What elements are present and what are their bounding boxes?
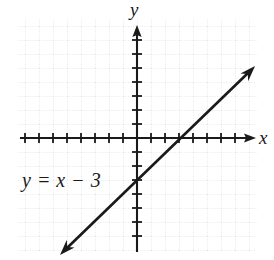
x-axis-label: x [259, 128, 267, 147]
equation-annotation: y = x − 3 [22, 169, 101, 192]
graph-figure: y x y = x − 3 [0, 0, 274, 260]
y-axis-label: y [130, 0, 138, 19]
coordinate-plane-svg [0, 0, 274, 260]
